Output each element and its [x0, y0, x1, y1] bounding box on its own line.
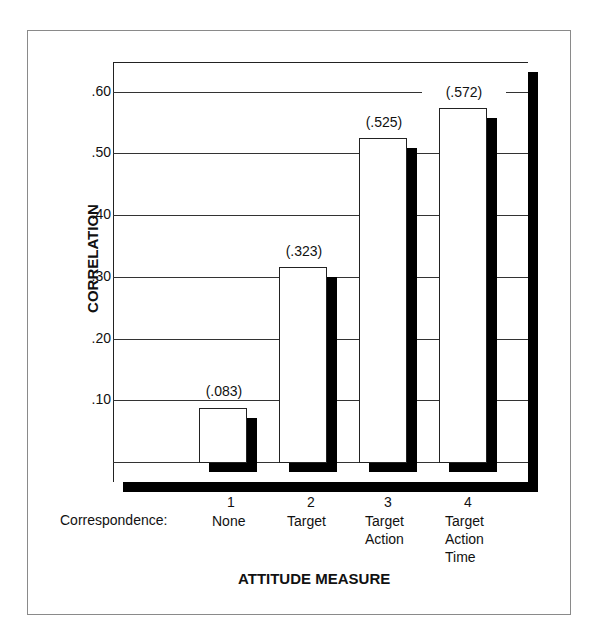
- bar-4: [439, 108, 487, 463]
- category-4-line-1: Target: [445, 512, 484, 530]
- bar-4-value: (.572): [422, 84, 506, 100]
- category-4-line-2: Action: [445, 530, 484, 548]
- bar-3: [359, 138, 407, 463]
- category-3-line-2: Action: [365, 530, 404, 548]
- bar-2: [279, 267, 327, 463]
- bar-3-value: (.525): [342, 114, 426, 130]
- category-2-line-1: Target: [287, 512, 326, 530]
- category-1-line-1: None: [212, 512, 245, 530]
- ytick-10: .10: [71, 391, 111, 407]
- category-1-label: None: [212, 512, 245, 530]
- bar-1-value: (.083): [182, 383, 266, 399]
- plot-shadow-right: [528, 72, 538, 492]
- category-4-label: Target Action Time: [445, 512, 484, 566]
- y-axis-label: CORRELATION: [84, 189, 101, 329]
- ytick-20: .20: [71, 330, 111, 346]
- category-3-label: Target Action: [365, 512, 404, 548]
- ytick-50: .50: [71, 144, 111, 160]
- category-1-number: 1: [201, 494, 261, 510]
- category-3-number: 3: [358, 494, 418, 510]
- category-2-label: Target: [287, 512, 326, 530]
- ytick-60: .60: [71, 83, 111, 99]
- category-2-number: 2: [281, 494, 341, 510]
- bar-1: [199, 408, 247, 463]
- category-3-line-1: Target: [365, 512, 404, 530]
- bar-2-value: (.323): [262, 243, 346, 259]
- x-axis-title: ATTITUDE MEASURE: [238, 570, 390, 587]
- category-4-number: 4: [438, 494, 498, 510]
- category-4-line-3: Time: [445, 548, 484, 566]
- correspondence-label: Correspondence:: [60, 512, 167, 528]
- plot-shadow-bottom: [123, 482, 538, 492]
